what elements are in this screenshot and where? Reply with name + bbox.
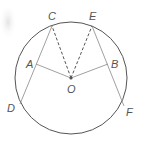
segment-OA	[36, 64, 71, 78]
label-C: C	[48, 10, 56, 22]
radius-OE-dashed	[71, 26, 92, 78]
label-O: O	[67, 83, 76, 95]
label-F: F	[126, 106, 134, 118]
label-A: A	[25, 58, 33, 70]
chord-CD	[20, 26, 52, 104]
geometry-diagram: C E A B O D F	[0, 0, 144, 142]
label-E: E	[89, 10, 97, 22]
chord-EF	[92, 26, 124, 106]
label-B: B	[111, 58, 118, 70]
label-D: D	[7, 102, 15, 114]
radius-OC-dashed	[52, 26, 71, 78]
smudge-shadow	[0, 4, 17, 40]
segment-OB	[71, 64, 108, 78]
center-point	[69, 76, 72, 79]
